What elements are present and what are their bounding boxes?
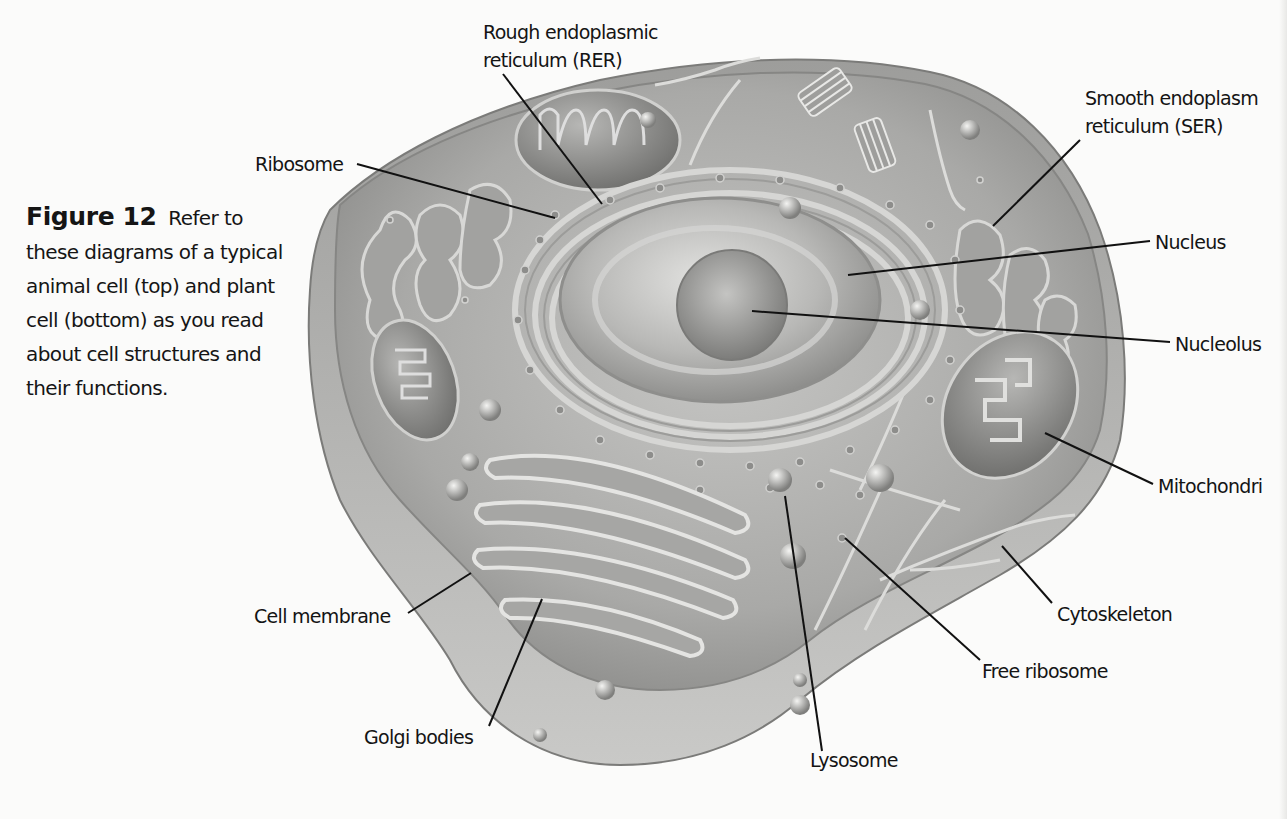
label-smooth-er: Smooth endoplasm reticulum (SER) xyxy=(1085,84,1258,140)
label-nucleolus: Nucleolus xyxy=(1175,330,1261,358)
label-cell-membrane: Cell membrane xyxy=(254,602,390,630)
mitochondrion-top xyxy=(516,90,680,190)
page-edge-shadow xyxy=(1279,0,1287,819)
label-rough-er: Rough endoplasmic reticulum (RER) xyxy=(483,18,658,74)
label-nucleus: Nucleus xyxy=(1155,228,1226,256)
label-ribosome: Ribosome xyxy=(255,150,343,178)
nucleolus xyxy=(677,250,787,360)
label-golgi-bodies: Golgi bodies xyxy=(364,723,473,751)
label-cytoskeleton: Cytoskeleton xyxy=(1057,600,1172,628)
label-mitochondria: Mitochondri xyxy=(1158,472,1262,500)
label-smooth-er-line1: Smooth endoplasm xyxy=(1085,84,1258,112)
label-lysosome: Lysosome xyxy=(810,746,898,774)
label-rough-er-line2: reticulum (RER) xyxy=(483,46,658,74)
label-free-ribosome: Free ribosome xyxy=(982,657,1108,685)
label-smooth-er-line2: reticulum (SER) xyxy=(1085,112,1258,140)
textbook-page: Figure 12 Refer to these diagrams of a t… xyxy=(0,0,1287,819)
label-rough-er-line1: Rough endoplasmic xyxy=(483,18,658,46)
